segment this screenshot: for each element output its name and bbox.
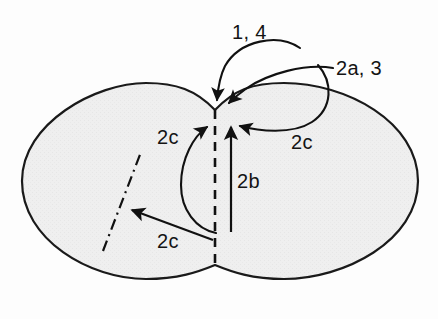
label-2c-bottom: 2c	[157, 231, 179, 251]
label-2b: 2b	[237, 171, 260, 191]
label-2c-right: 2c	[291, 132, 313, 152]
figure-container: 1, 4 2a, 3 2c 2c 2b 2c	[0, 0, 438, 319]
peanut-shape-outline	[22, 83, 418, 279]
label-1-4: 1, 4	[232, 22, 267, 42]
label-2a-3: 2a, 3	[336, 58, 382, 78]
diagram-canvas	[0, 0, 438, 319]
label-2c-left: 2c	[157, 127, 179, 147]
peanut-shape-group	[22, 83, 418, 279]
